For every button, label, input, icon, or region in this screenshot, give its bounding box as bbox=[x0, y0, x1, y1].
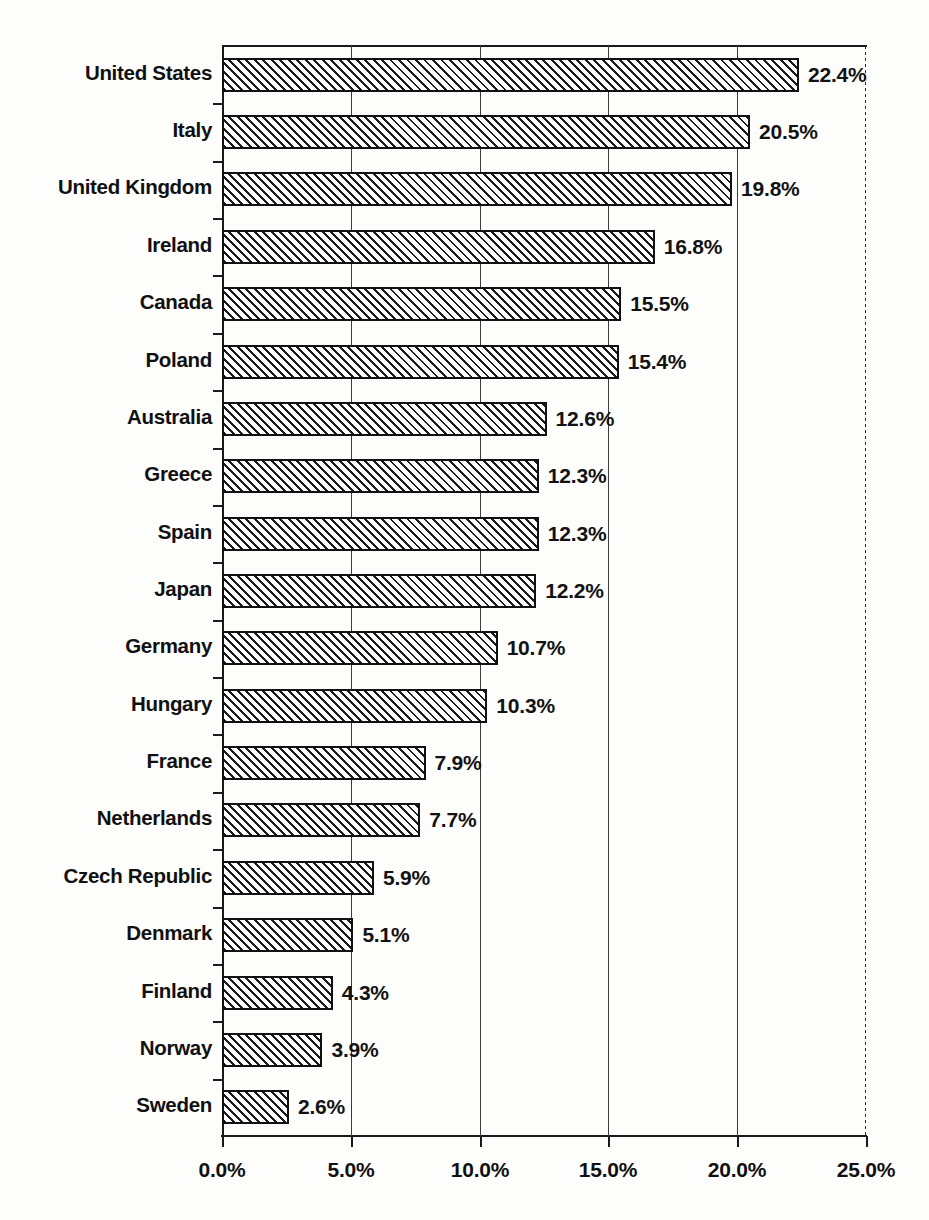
y-tick-4 bbox=[213, 275, 223, 277]
category-label: Norway bbox=[12, 1036, 212, 1060]
y-tick-8 bbox=[213, 505, 223, 507]
category-label: Greece bbox=[12, 462, 212, 486]
y-tick-10 bbox=[213, 620, 223, 622]
category-label: Spain bbox=[12, 520, 212, 544]
category-label: Ireland bbox=[12, 233, 212, 257]
x-axis-line bbox=[221, 1135, 867, 1137]
y-tick-17 bbox=[213, 1021, 223, 1023]
bar-row: 12.3% bbox=[222, 517, 866, 551]
y-tick-2 bbox=[213, 161, 223, 163]
bar-value-label: 5.1% bbox=[362, 923, 409, 947]
bar-row: 7.9% bbox=[222, 746, 866, 780]
bar bbox=[222, 58, 799, 92]
category-label: Netherlands bbox=[12, 806, 212, 830]
bar-value-label: 4.3% bbox=[342, 981, 389, 1005]
bar bbox=[222, 230, 655, 264]
y-tick-15 bbox=[213, 907, 223, 909]
bar bbox=[222, 976, 333, 1010]
x-tick-2 bbox=[480, 1136, 482, 1147]
x-tick-4 bbox=[737, 1136, 739, 1147]
x-tick-label-1: 5.0% bbox=[327, 1158, 374, 1182]
bar-value-label: 12.3% bbox=[548, 522, 607, 546]
category-label: Poland bbox=[12, 348, 212, 372]
bar-value-label: 12.3% bbox=[548, 464, 607, 488]
bar-value-label: 20.5% bbox=[759, 120, 818, 144]
category-label: Australia bbox=[12, 405, 212, 429]
bar-value-label: 7.7% bbox=[429, 808, 476, 832]
bar-row: 20.5% bbox=[222, 115, 866, 149]
bar bbox=[222, 172, 732, 206]
y-tick-12 bbox=[213, 734, 223, 736]
y-tick-9 bbox=[213, 562, 223, 564]
bar-value-label: 19.8% bbox=[741, 177, 800, 201]
x-tick-0 bbox=[222, 1136, 224, 1147]
bar-row: 5.9% bbox=[222, 861, 866, 895]
category-label: Germany bbox=[12, 634, 212, 658]
y-tick-18 bbox=[213, 1079, 223, 1081]
x-tick-label-5: 25.0% bbox=[837, 1158, 896, 1182]
bar-value-label: 22.4% bbox=[808, 63, 867, 87]
bar-row: 19.8% bbox=[222, 172, 866, 206]
category-label: Italy bbox=[12, 118, 212, 142]
x-tick-3 bbox=[608, 1136, 610, 1147]
x-tick-label-4: 20.0% bbox=[708, 1158, 767, 1182]
category-label: France bbox=[12, 749, 212, 773]
bar-row: 5.1% bbox=[222, 918, 866, 952]
category-label: Japan bbox=[12, 577, 212, 601]
bar-value-label: 3.9% bbox=[331, 1038, 378, 1062]
bar-row: 7.7% bbox=[222, 803, 866, 837]
bar-value-label: 15.4% bbox=[628, 350, 687, 374]
y-tick-7 bbox=[213, 448, 223, 450]
bar-value-label: 7.9% bbox=[435, 751, 482, 775]
bar bbox=[222, 459, 539, 493]
category-label: Finland bbox=[12, 979, 212, 1003]
y-tick-11 bbox=[213, 677, 223, 679]
bar bbox=[222, 631, 498, 665]
category-label: United States bbox=[12, 61, 212, 85]
x-tick-label-2: 10.0% bbox=[451, 1158, 510, 1182]
x-tick-5 bbox=[866, 1136, 868, 1147]
bar-row: 3.9% bbox=[222, 1033, 866, 1067]
bar-value-label: 5.9% bbox=[383, 866, 430, 890]
bar bbox=[222, 803, 420, 837]
category-axis-labels: United StatesItalyUnited KingdomIrelandC… bbox=[6, 46, 212, 1136]
y-tick-14 bbox=[213, 849, 223, 851]
bar bbox=[222, 517, 539, 551]
bar-value-label: 2.6% bbox=[298, 1095, 345, 1119]
y-tick-16 bbox=[213, 964, 223, 966]
x-tick-1 bbox=[351, 1136, 353, 1147]
bar-row: 12.2% bbox=[222, 574, 866, 608]
bar-value-label: 10.7% bbox=[507, 636, 566, 660]
bar-row: 22.4% bbox=[222, 58, 866, 92]
bar-value-label: 12.2% bbox=[545, 579, 604, 603]
bar bbox=[222, 345, 619, 379]
bar bbox=[222, 861, 374, 895]
bar bbox=[222, 115, 750, 149]
bar-row: 10.3% bbox=[222, 689, 866, 723]
x-tick-label-3: 15.0% bbox=[579, 1158, 638, 1182]
category-label: Denmark bbox=[12, 921, 212, 945]
y-tick-6 bbox=[213, 390, 223, 392]
bar bbox=[222, 1090, 289, 1124]
bar bbox=[222, 746, 426, 780]
y-tick-5 bbox=[213, 333, 223, 335]
bar bbox=[222, 918, 353, 952]
bar-row: 12.3% bbox=[222, 459, 866, 493]
bar bbox=[222, 402, 547, 436]
category-label: Hungary bbox=[12, 692, 212, 716]
bar bbox=[222, 574, 536, 608]
y-tick-13 bbox=[213, 792, 223, 794]
bar-chart: United StatesItalyUnited KingdomIrelandC… bbox=[0, 0, 929, 1220]
bar-value-label: 15.5% bbox=[630, 292, 689, 316]
bar-row: 2.6% bbox=[222, 1090, 866, 1124]
bar-value-label: 10.3% bbox=[496, 694, 555, 718]
bar bbox=[222, 689, 487, 723]
bar-row: 10.7% bbox=[222, 631, 866, 665]
plot-border-top bbox=[222, 45, 867, 47]
category-label: United Kingdom bbox=[12, 175, 212, 199]
category-label: Sweden bbox=[12, 1093, 212, 1117]
category-label: Canada bbox=[12, 290, 212, 314]
bar-row: 4.3% bbox=[222, 976, 866, 1010]
bar-value-label: 16.8% bbox=[664, 235, 723, 259]
category-label: Czech Republic bbox=[12, 864, 212, 888]
